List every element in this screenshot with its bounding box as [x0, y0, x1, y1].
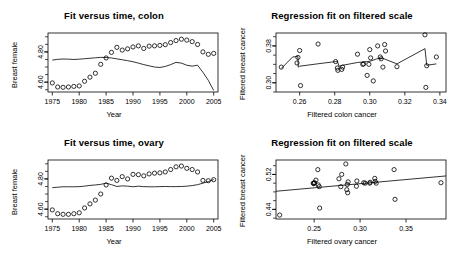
x-tick-label: 0.30 — [363, 98, 377, 105]
data-point — [368, 47, 372, 51]
x-tick-label: 0.34 — [433, 98, 447, 105]
data-point — [136, 44, 140, 48]
data-point — [298, 48, 302, 52]
data-point — [163, 43, 167, 47]
data-points — [50, 37, 216, 89]
data-point — [354, 184, 358, 188]
plot-area: 19751980198519901995200020054.604.80 — [0, 0, 228, 127]
data-point — [201, 50, 205, 54]
data-point — [298, 83, 302, 87]
data-point — [190, 167, 194, 171]
data-point — [126, 47, 130, 51]
data-point — [50, 208, 54, 212]
x-tick-label: 1985 — [98, 225, 114, 232]
plot-area: 0.260.280.300.320.340.300.38 — [228, 0, 456, 127]
y-tick-label: 0.52 — [265, 168, 272, 182]
data-point — [147, 172, 151, 176]
data-point — [201, 178, 205, 182]
x-tick-label: 0.26 — [293, 98, 307, 105]
data-point — [346, 180, 350, 184]
data-point — [365, 73, 369, 77]
data-point — [126, 177, 130, 181]
data-point — [278, 213, 282, 217]
x-tick-label: 1980 — [71, 98, 87, 105]
data-point — [190, 40, 194, 44]
y-tick-label: 4.60 — [37, 202, 44, 216]
data-point — [56, 85, 60, 89]
data-point — [179, 37, 183, 41]
data-points — [279, 33, 438, 90]
data-point — [136, 173, 140, 177]
data-point — [383, 49, 387, 53]
data-point — [82, 79, 86, 83]
data-point — [88, 202, 92, 206]
fit-line — [281, 49, 436, 69]
x-tick-label: 1995 — [152, 98, 168, 105]
x-tick-label: 1985 — [98, 98, 114, 105]
x-tick-label: 0.25 — [307, 225, 321, 232]
data-point — [316, 42, 320, 46]
x-axis-title: Year — [0, 237, 228, 246]
data-point — [344, 162, 348, 166]
figure-panel-grid: Fit versus time, colon 19751980198519901… — [0, 0, 456, 254]
data-points — [278, 162, 443, 217]
x-tick-label: 1975 — [45, 225, 61, 232]
plot-area: 19751980198519901995200020054.604.80 — [0, 127, 228, 254]
data-point — [316, 168, 320, 172]
data-point — [340, 172, 344, 176]
y-tick-label: 4.80 — [37, 172, 44, 186]
data-point — [66, 85, 70, 89]
fit-line — [276, 176, 446, 191]
data-point — [72, 212, 76, 216]
data-point — [77, 211, 81, 215]
data-point — [152, 171, 156, 175]
x-tick-label: 0.28 — [328, 98, 342, 105]
x-tick-label: 1990 — [125, 225, 141, 232]
data-point — [395, 65, 399, 69]
data-point — [142, 46, 146, 50]
data-point — [147, 44, 151, 48]
data-point — [93, 71, 97, 75]
data-point — [212, 51, 216, 55]
y-axis-title: Filtered breast cancer — [238, 27, 247, 100]
data-point — [66, 212, 70, 216]
data-point — [61, 85, 65, 89]
data-point — [376, 44, 380, 48]
x-tick-label: 1980 — [71, 225, 87, 232]
x-tick-label: 1990 — [125, 98, 141, 105]
y-axis-title: Breast female — [10, 42, 19, 88]
data-point — [195, 42, 199, 46]
data-point — [367, 62, 371, 66]
data-point — [369, 56, 373, 60]
x-tick-label: 1975 — [45, 98, 61, 105]
fit-line — [52, 57, 213, 90]
data-point — [318, 206, 322, 210]
panel-fit-versus-time-ovary: Fit versus time, ovary 19751980198519901… — [0, 127, 228, 254]
data-point — [195, 170, 199, 174]
data-point — [109, 50, 113, 54]
data-point — [337, 177, 341, 181]
y-tick-label: 4.60 — [37, 75, 44, 89]
data-point — [185, 166, 189, 170]
y-axis-title: Filtered breast cancer — [238, 154, 247, 227]
data-point — [120, 175, 124, 179]
data-point — [158, 43, 162, 47]
data-point — [355, 179, 359, 183]
data-point — [131, 172, 135, 176]
y-tick-label: 0.30 — [265, 76, 272, 90]
x-tick-label: 1995 — [152, 225, 168, 232]
data-point — [163, 170, 167, 174]
data-point — [77, 84, 81, 88]
data-point — [381, 65, 385, 69]
data-point — [169, 167, 173, 171]
data-point — [158, 171, 162, 175]
data-point — [174, 38, 178, 42]
data-point — [72, 84, 76, 88]
data-point — [439, 181, 443, 185]
x-tick-label: 2000 — [179, 225, 195, 232]
data-point — [131, 45, 135, 49]
data-point — [142, 174, 146, 178]
x-axis-title: Filtered colon cancer — [228, 110, 456, 119]
data-point — [383, 42, 387, 46]
x-tick-label: 0.35 — [399, 225, 413, 232]
